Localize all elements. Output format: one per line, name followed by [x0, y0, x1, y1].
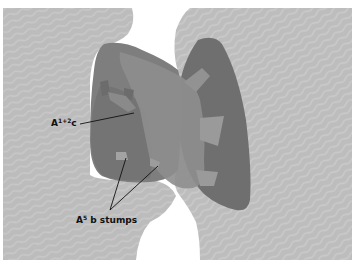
label-a5b-base: A: [76, 215, 83, 225]
anatomical-figure: A1+2c A5 b stumps: [0, 0, 354, 271]
label-a12c-suffix: c: [71, 118, 76, 128]
label-a5b-suffix: b stumps: [87, 215, 137, 225]
label-a12c-superscript: 1+2: [58, 117, 71, 124]
lung-illustration: [0, 0, 354, 271]
label-a1-2c: A1+2c: [51, 119, 77, 128]
label-a12c-base: A: [51, 118, 58, 128]
label-a5b-stumps: A5 b stumps: [76, 216, 137, 225]
